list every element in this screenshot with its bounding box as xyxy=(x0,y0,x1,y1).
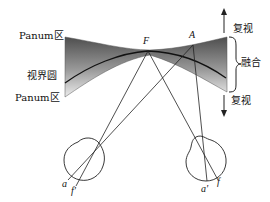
object-point-label: A xyxy=(189,30,195,40)
fusion-label: 融合 xyxy=(241,58,261,68)
arrow-down-icon xyxy=(221,110,227,117)
right-eye-a-label: a' xyxy=(201,184,208,194)
horopter-label: 视界圆 xyxy=(27,71,57,81)
diplopia-upper-label: 复视 xyxy=(233,24,253,34)
fusion-brace xyxy=(229,37,241,92)
panum-lower-label: Panum区 xyxy=(15,93,60,103)
left-eye-f-label: f' xyxy=(71,186,76,196)
arrow-up-icon xyxy=(221,8,227,15)
diplopia-lower-label: 复视 xyxy=(231,96,251,106)
left-eye-a-label: a xyxy=(62,179,67,189)
right-eye-f-label: f xyxy=(217,177,220,187)
fixation-point-label: F xyxy=(143,36,149,46)
panum-upper-label: Panum区 xyxy=(19,31,64,41)
panum-area-band xyxy=(65,37,227,97)
